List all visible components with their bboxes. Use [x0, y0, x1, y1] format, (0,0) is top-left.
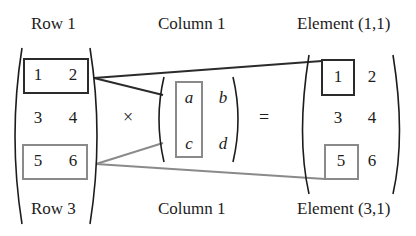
right-cell: 4	[362, 108, 382, 128]
right-cell: 6	[362, 151, 382, 171]
equals-operator: =	[259, 107, 269, 128]
left-paren	[15, 48, 22, 224]
left-cell: 5	[28, 151, 48, 171]
right-cell: 5	[331, 151, 351, 171]
label-element-3-1: Element (3,1)	[297, 199, 390, 219]
label-element-1-1: Element (1,1)	[297, 14, 390, 34]
left-cell: 2	[63, 65, 83, 85]
middle-cell: b	[213, 88, 233, 108]
label-row-3: Row 3	[31, 199, 76, 219]
left-cell: 1	[28, 65, 48, 85]
left-cell: 6	[63, 151, 83, 171]
middle-cell: d	[213, 134, 233, 154]
label-column-1-bottom: Column 1	[158, 199, 226, 219]
left-cell: 3	[28, 108, 48, 128]
right-cell: 3	[328, 108, 348, 128]
right-cell: 1	[328, 67, 348, 87]
label-column-1-top: Column 1	[158, 14, 226, 34]
right-paren	[90, 48, 97, 224]
middle-cell: c	[179, 134, 199, 154]
right-cell: 2	[362, 67, 382, 87]
left-cell: 4	[63, 108, 83, 128]
label-row-1: Row 1	[31, 14, 76, 34]
times-operator: ×	[123, 107, 133, 128]
middle-cell: a	[179, 88, 199, 108]
